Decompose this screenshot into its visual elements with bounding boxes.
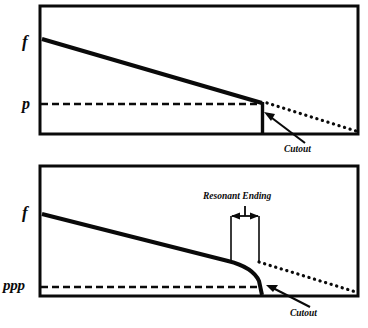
upper-dynamic-label-f: f [22, 33, 28, 50]
upper-dynamic-label-p: p [22, 96, 30, 112]
figure-canvas: f p Cutout f ppp Resonant Ending Cutout [0, 0, 368, 328]
upper-cutout-label: Cutout [284, 145, 311, 155]
lower-dynamic-label-ppp: ppp [3, 278, 25, 293]
bracket-arrow-right-head [250, 213, 259, 220]
lower-dynamic-label-f: f [22, 204, 28, 221]
panel-upper [40, 6, 358, 143]
upper-cutout-arrow [264, 112, 305, 143]
lower-envelope-curve [42, 214, 262, 295]
upper-envelope-line [42, 39, 262, 103]
bracket-arrow-left-head [231, 213, 240, 220]
panel-lower [40, 166, 358, 307]
resonant-ending-bracket [231, 206, 259, 262]
panel-upper-frame [40, 6, 358, 134]
lower-cutout-label: Cutout [290, 309, 317, 319]
envelope-diagram-svg [0, 0, 368, 328]
upper-continuation-dotted-line [267, 103, 356, 131]
resonant-ending-label: Resonant Ending [203, 192, 271, 202]
